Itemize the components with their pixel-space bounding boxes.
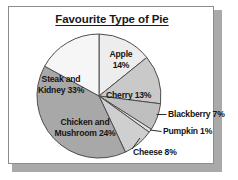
slice-label-chicken-and-mushroom-line1: Chicken and	[45, 117, 125, 128]
slice-label-cheese-line1: Cheese 8%	[133, 147, 193, 158]
pie-chart: Apple 14% Cherry 13% Steak and Kidney 33…	[9, 7, 215, 165]
slice-label-pumpkin-line1: Pumpkin 1%	[163, 126, 221, 137]
slice-label-steak-and-kidney: Steak and Kidney 33%	[27, 74, 95, 95]
slice-label-cherry: Cherry 13%	[106, 90, 176, 101]
slice-label-steak-and-kidney-line2: Kidney 33%	[27, 85, 95, 96]
slice-label-apple-line1: Apple	[97, 49, 145, 60]
slice-label-chicken-and-mushroom-line2: Mushroom 24%	[45, 128, 125, 139]
chart-page: Favourite Type of Pie	[0, 0, 238, 180]
slice-label-blackberry-line1: Blackberry 7%	[168, 109, 228, 120]
slice-label-chicken-and-mushroom: Chicken and Mushroom 24%	[45, 117, 125, 138]
slice-label-cherry-line1: Cherry 13%	[106, 90, 176, 101]
slice-label-blackberry: Blackberry 7%	[168, 109, 228, 120]
leader-line-pumpkin	[150, 130, 162, 132]
chart-frame: Favourite Type of Pie	[8, 6, 214, 164]
slice-label-steak-and-kidney-line1: Steak and	[27, 74, 95, 85]
slice-label-apple: Apple 14%	[97, 49, 145, 70]
slice-label-apple-line2: 14%	[97, 60, 145, 71]
slice-label-pumpkin: Pumpkin 1%	[163, 126, 221, 137]
slice-label-cheese: Cheese 8%	[133, 147, 193, 158]
